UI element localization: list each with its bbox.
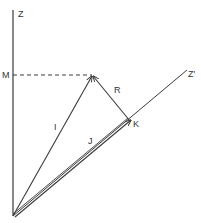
vector-i-label: I — [54, 123, 57, 132]
z-prime-axis-label: Z' — [188, 70, 195, 79]
vector-j-arrow — [15, 120, 131, 217]
vector-diagram — [0, 0, 201, 223]
vector-i-arrow — [13, 76, 92, 216]
vector-j-parallel-line — [13, 118, 128, 214]
z-prime-axis — [13, 70, 187, 216]
vector-j-label: J — [88, 137, 93, 146]
vector-r-label: R — [114, 86, 121, 95]
z-axis-label: Z — [18, 10, 24, 19]
point-k-label: K — [133, 120, 139, 129]
vector-r-arrow — [93, 76, 130, 121]
point-m-label: M — [2, 71, 10, 80]
